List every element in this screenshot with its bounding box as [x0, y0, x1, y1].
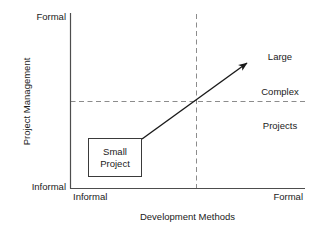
annotation-small-project-line-2: Project	[100, 158, 130, 170]
annotation-large-projects-line-1: Large	[252, 51, 308, 63]
x-axis-tick-informal: Informal	[73, 191, 107, 202]
x-axis-tick-formal: Formal	[273, 191, 303, 202]
chart-figure: Formal Informal Informal Formal Project …	[0, 0, 319, 231]
x-axis-title: Development Methods	[70, 211, 305, 222]
annotation-small-project: Small Project	[88, 138, 142, 177]
y-axis-tick-formal: Formal	[36, 11, 66, 22]
annotation-small-project-line-1: Small	[103, 146, 127, 158]
annotation-large-projects-line-3: Projects	[252, 120, 308, 132]
annotation-large-complex-projects: Large Complex Projects	[252, 28, 308, 155]
y-axis-title: Project Management	[21, 27, 32, 177]
y-axis-tick-informal: Informal	[32, 181, 66, 192]
annotation-large-projects-line-2: Complex	[252, 86, 308, 98]
